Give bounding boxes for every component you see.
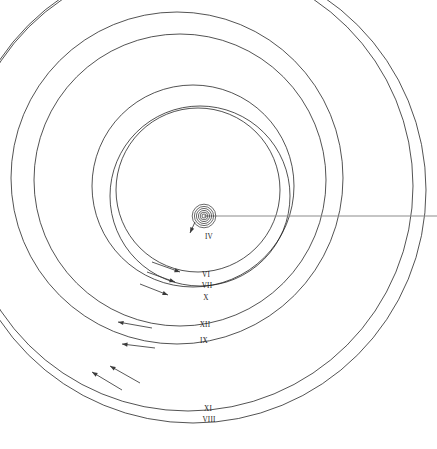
orbital-diagram-canvas: IVVIVIIXXIIIXXIVIII	[0, 0, 437, 449]
orbit-vii-motion-arrow	[147, 272, 175, 282]
orbit-label-vi: VI	[202, 271, 210, 279]
orbit-viii-motion-arrow-head	[92, 372, 98, 377]
orbit-circle-xii	[34, 34, 326, 326]
orbit-circle-ix	[11, 12, 343, 344]
orbit-label-viii: VIII	[202, 416, 216, 424]
orbit-xii-motion-arrow-head	[118, 321, 124, 325]
orbit-label-xi: XI	[204, 405, 212, 413]
orbit-x-motion-arrow	[140, 284, 168, 295]
center-motion-arrow-head	[190, 227, 194, 233]
orbit-circle-vi	[116, 108, 280, 272]
orbit-ix-motion-arrow	[122, 343, 155, 348]
orbit-label-iv: IV	[205, 233, 214, 241]
orbit-viii-motion-arrow	[92, 372, 122, 390]
orbit-label-vii: VII	[202, 282, 213, 290]
orbit-labels-group: IVVIVIIXXIIIXXIVIII	[200, 233, 216, 424]
orbit-label-xii: XII	[200, 321, 211, 329]
orbit-x-motion-arrow-head	[162, 291, 168, 295]
orbit-ix-motion-arrow-head	[122, 343, 128, 347]
orbit-vii-motion-arrow-head	[169, 278, 175, 282]
center-motion-arrow	[190, 222, 195, 233]
orbit-circle-x	[92, 85, 294, 287]
orbit-label-ix: IX	[200, 337, 209, 345]
motion-arrows-group	[92, 222, 195, 390]
orbit-circle-xi	[0, 0, 413, 411]
orbit-xi-motion-arrow-head	[110, 366, 116, 371]
orbit-label-x: X	[203, 294, 209, 302]
orbit-circles-group	[0, 0, 426, 423]
orbit-circle-viii	[0, 0, 426, 423]
orbit-xi-motion-arrow	[110, 366, 140, 383]
orbit-vi-motion-arrow	[152, 262, 180, 272]
orbital-diagram-figure: IVVIVIIXXIIIXXIVIII	[0, 0, 437, 449]
